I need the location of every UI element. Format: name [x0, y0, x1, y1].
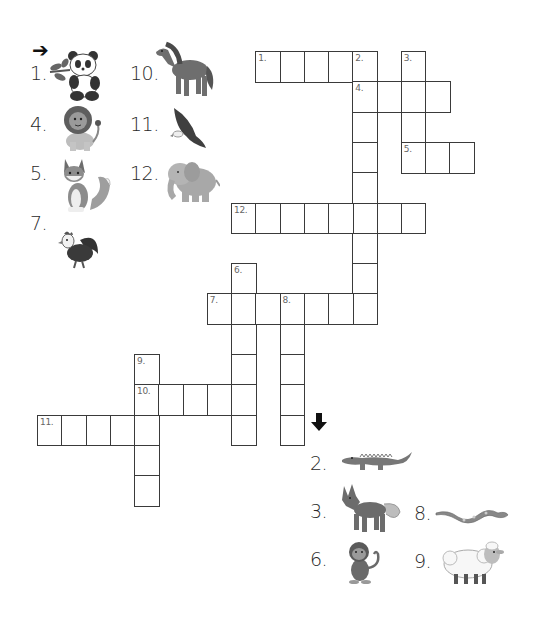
down-arrow-icon [311, 413, 327, 434]
grid-cell[interactable] [86, 415, 112, 447]
rooster-icon [58, 226, 100, 270]
clue-label: 4. [30, 113, 47, 135]
crocodile-icon [342, 450, 412, 472]
grid-cell[interactable] [183, 384, 209, 416]
elephant-icon [164, 158, 220, 204]
grid-cell[interactable] [134, 475, 160, 507]
grid-cell[interactable] [425, 142, 451, 174]
grid-cell[interactable] [255, 203, 281, 235]
clue-number: 10. [137, 386, 150, 396]
clue-number: 1. [258, 53, 266, 63]
monkey-icon [344, 538, 382, 584]
grid-cell[interactable] [231, 354, 257, 386]
grid-cell[interactable]: 12. [231, 203, 257, 235]
grid-cell[interactable] [352, 203, 378, 235]
clue-item: 1. [30, 62, 47, 84]
grid-cell[interactable] [280, 415, 306, 447]
grid-cell[interactable] [304, 203, 330, 235]
grid-cell[interactable] [134, 445, 160, 477]
grid-cell[interactable] [280, 203, 306, 235]
grid-cell[interactable]: 5. [401, 142, 427, 174]
wolf-icon [340, 482, 402, 534]
grid-cell[interactable] [61, 415, 87, 447]
grid-cell[interactable] [328, 51, 354, 83]
clue-label: 9. [414, 550, 431, 572]
grid-cell[interactable]: 1. [255, 51, 281, 83]
grid-cell[interactable] [280, 384, 306, 416]
clue-item: 11. [130, 113, 159, 135]
clue-label: 8. [414, 502, 431, 524]
grid-cell[interactable] [231, 415, 257, 447]
clue-label: 12. [130, 162, 159, 184]
grid-cell[interactable]: 8. [280, 293, 306, 325]
clue-number: 4. [355, 83, 363, 93]
clue-item: 12. [130, 162, 159, 184]
clue-number: 3. [404, 53, 412, 63]
grid-cell[interactable] [255, 293, 281, 325]
grid-cell[interactable]: 6. [231, 263, 257, 295]
fox-icon [60, 155, 112, 215]
crossword-puzzle: ➔ 1.2.4.3.5.12.6.7.8.9.10.11. 1.4.5.7.10… [0, 0, 538, 625]
clue-number: 5. [404, 144, 412, 154]
grid-cell[interactable] [352, 263, 378, 295]
clue-number: 2. [355, 53, 363, 63]
grid-cell[interactable] [377, 81, 403, 113]
grid-cell[interactable] [280, 354, 306, 386]
grid-cell[interactable] [352, 142, 378, 174]
clue-item: 9. [414, 550, 431, 572]
grid-cell[interactable]: 10. [134, 384, 160, 416]
grid-cell[interactable] [401, 203, 427, 235]
horse-icon [154, 40, 216, 100]
grid-cell[interactable] [377, 203, 403, 235]
lion-icon [60, 104, 106, 152]
grid-cell[interactable] [328, 293, 354, 325]
clue-item: 4. [30, 113, 47, 135]
clue-label: 11. [130, 113, 159, 135]
grid-cell[interactable] [134, 415, 160, 447]
clue-number: 11. [40, 417, 53, 427]
clue-label: 1. [30, 62, 47, 84]
grid-cell[interactable] [449, 142, 475, 174]
grid-cell[interactable] [231, 293, 257, 325]
grid-cell[interactable] [352, 293, 378, 325]
grid-cell[interactable] [207, 384, 233, 416]
grid-cell[interactable] [110, 415, 136, 447]
grid-cell[interactable] [352, 233, 378, 265]
grid-cell[interactable] [304, 51, 330, 83]
clue-label: 3. [310, 500, 327, 522]
clue-item: 7. [30, 212, 47, 234]
clue-label: 6. [310, 548, 327, 570]
panda-icon [48, 50, 104, 102]
clue-item: 5. [30, 162, 47, 184]
grid-cell[interactable]: 3. [401, 51, 427, 83]
grid-cell[interactable]: 9. [134, 354, 160, 386]
clue-label: 5. [30, 162, 47, 184]
grid-cell[interactable] [425, 81, 451, 113]
grid-cell[interactable] [352, 112, 378, 144]
grid-cell[interactable] [158, 384, 184, 416]
clue-item: 2. [310, 452, 327, 474]
snake-icon [434, 505, 510, 525]
grid-cell[interactable] [231, 384, 257, 416]
clue-number: 8. [283, 295, 291, 305]
grid-cell[interactable] [231, 324, 257, 356]
grid-cell[interactable] [401, 81, 427, 113]
grid-cell[interactable]: 11. [37, 415, 63, 447]
clue-number: 12. [234, 205, 247, 215]
sheep-icon [440, 540, 506, 586]
clue-item: 8. [414, 502, 431, 524]
across-arrow-icon: ➔ [32, 40, 49, 60]
grid-cell[interactable] [328, 203, 354, 235]
grid-cell[interactable] [401, 112, 427, 144]
clue-number: 9. [137, 356, 145, 366]
grid-cell[interactable]: 2. [352, 51, 378, 83]
clue-item: 3. [310, 500, 327, 522]
grid-cell[interactable]: 7. [207, 293, 233, 325]
grid-cell[interactable] [280, 51, 306, 83]
grid-cell[interactable] [280, 324, 306, 356]
clue-number: 6. [234, 265, 242, 275]
grid-cell[interactable] [352, 172, 378, 204]
clue-number: 7. [210, 295, 218, 305]
grid-cell[interactable]: 4. [352, 81, 378, 113]
grid-cell[interactable] [304, 293, 330, 325]
